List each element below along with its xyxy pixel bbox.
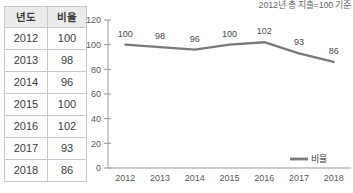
data-point-label: 93 bbox=[294, 37, 304, 47]
table-row: 201398 bbox=[5, 50, 87, 72]
x-axis-tick-label: 2016 bbox=[254, 173, 274, 183]
column-header-ratio: 비율 bbox=[48, 7, 87, 28]
cell-ratio: 100 bbox=[48, 28, 87, 50]
cell-year: 2018 bbox=[5, 160, 48, 182]
legend-label-ratio: 비율 bbox=[311, 154, 327, 164]
table-body: 2012100201398201496201510020161022017932… bbox=[5, 28, 87, 182]
x-axis-tick-label: 2014 bbox=[185, 173, 205, 183]
cell-ratio: 98 bbox=[48, 50, 87, 72]
screenshot-root: 년도 비율 2012100201398201496201510020161022… bbox=[0, 0, 353, 193]
y-axis-tick-label: 100 bbox=[86, 40, 101, 50]
table-row: 201793 bbox=[5, 138, 87, 160]
cell-year: 2017 bbox=[5, 138, 48, 160]
y-axis: 020406080100120 bbox=[86, 15, 111, 173]
table-row: 2012100 bbox=[5, 28, 87, 50]
data-point-label: 100 bbox=[222, 29, 237, 39]
cell-ratio: 100 bbox=[48, 94, 87, 116]
chart-plot-area: 020406080100120 201220132014201520162017… bbox=[86, 0, 353, 193]
y-axis-tick-label: 80 bbox=[91, 65, 101, 75]
x-axis-tick-label: 2015 bbox=[219, 173, 239, 183]
cell-year: 2015 bbox=[5, 94, 48, 116]
x-axis: 2012201320142015201620172018 bbox=[108, 168, 351, 183]
y-axis-tick-label: 60 bbox=[91, 89, 101, 99]
table-row: 2016102 bbox=[5, 116, 87, 138]
table-row: 2015100 bbox=[5, 94, 87, 116]
y-axis-tick-label: 20 bbox=[91, 139, 101, 149]
y-axis-tick-label: 40 bbox=[91, 114, 101, 124]
cell-year: 2016 bbox=[5, 116, 48, 138]
x-axis-tick-label: 2013 bbox=[150, 173, 170, 183]
table-row: 201886 bbox=[5, 160, 87, 182]
x-axis-tick-label: 2018 bbox=[324, 173, 344, 183]
table-row: 201496 bbox=[5, 72, 87, 94]
data-point-label: 102 bbox=[257, 26, 272, 36]
chart-legend: 비율 bbox=[290, 154, 327, 164]
data-point-label: 98 bbox=[155, 31, 165, 41]
cell-ratio: 102 bbox=[48, 116, 87, 138]
cell-year: 2013 bbox=[5, 50, 48, 72]
cell-year: 2012 bbox=[5, 28, 48, 50]
cell-year: 2014 bbox=[5, 72, 48, 94]
x-axis-tick-label: 2012 bbox=[115, 173, 135, 183]
table-header-row: 년도 비율 bbox=[5, 7, 87, 28]
data-point-label: 100 bbox=[118, 29, 133, 39]
y-axis-tick-label: 120 bbox=[86, 15, 101, 25]
ratio-data-table: 년도 비율 2012100201398201496201510020161022… bbox=[4, 6, 87, 182]
cell-ratio: 86 bbox=[48, 160, 87, 182]
x-axis-tick-label: 2017 bbox=[289, 173, 309, 183]
line-chart-panel: 2012년 총 지출=100 기준 020406080100120 201220… bbox=[86, 0, 353, 193]
cell-ratio: 96 bbox=[48, 72, 87, 94]
data-point-label: 86 bbox=[329, 46, 339, 56]
data-point-label: 96 bbox=[190, 34, 200, 44]
data-point-labels: 10098961001029386 bbox=[118, 26, 339, 56]
data-table-panel: 년도 비율 2012100201398201496201510020161022… bbox=[4, 6, 84, 182]
y-axis-tick-label: 0 bbox=[96, 163, 101, 173]
cell-ratio: 93 bbox=[48, 138, 87, 160]
table-head: 년도 비율 bbox=[5, 7, 87, 28]
column-header-year: 년도 bbox=[5, 7, 48, 28]
